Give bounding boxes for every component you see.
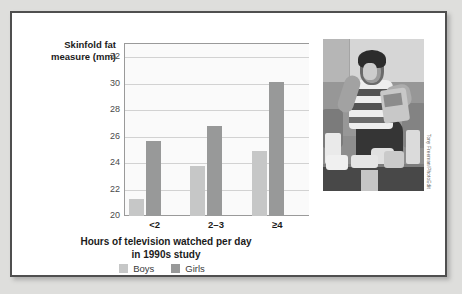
y-tick-label: 32: [98, 51, 120, 61]
legend-swatch-icon: [119, 264, 128, 273]
y-tick-label: 24: [98, 157, 120, 167]
y-tick-label: 30: [98, 78, 120, 88]
plot-area: [124, 43, 309, 216]
y-tick-label: 28: [98, 104, 120, 114]
bar-group: [248, 44, 309, 216]
x-axis-title-line1: Hours of television watched per day: [80, 236, 251, 247]
photo-image: [323, 39, 424, 191]
x-axis-title: Hours of television watched per day in 1…: [16, 235, 316, 261]
photo-figure: Tony Freeman/PhotoEdit: [323, 39, 424, 191]
bar-chart: Skinfold fat measure (mm) 20222426283032…: [12, 13, 320, 279]
bar-girls: [269, 82, 284, 216]
bar-boys: [252, 151, 267, 216]
legend-label: Boys: [133, 263, 154, 274]
x-axis-title-line2: in 1990s study: [132, 249, 201, 260]
y-axis-tick-labels: 20222426283032: [96, 43, 120, 216]
legend-label: Girls: [185, 263, 205, 274]
x-tick-label: <2: [132, 219, 178, 230]
bar-group: [186, 44, 247, 216]
x-tick-label: 2–3: [193, 219, 239, 230]
legend-item-boys[interactable]: Boys: [119, 263, 154, 274]
y-tick-label: 26: [98, 131, 120, 141]
y-tick-label: 22: [98, 184, 120, 194]
bar-boys: [129, 199, 144, 216]
bar-group: [125, 44, 186, 216]
legend-swatch-icon: [171, 264, 180, 273]
bar-girls: [207, 126, 222, 216]
legend-item-girls[interactable]: Girls: [171, 263, 205, 274]
y-tick-label: 20: [98, 210, 120, 220]
figure-frame: Skinfold fat measure (mm) 20222426283032…: [10, 11, 447, 277]
photo-credit: Tony Freeman/PhotoEdit: [426, 39, 437, 191]
chart-legend: BoysGirls: [12, 263, 312, 274]
bar-boys: [190, 166, 205, 216]
bars-layer: [125, 44, 309, 216]
x-tick-label: ≥4: [254, 219, 300, 230]
bar-girls: [146, 141, 161, 216]
